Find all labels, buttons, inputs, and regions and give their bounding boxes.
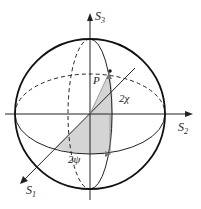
point-p-label: P: [92, 74, 100, 86]
s2-arrowhead: [185, 111, 193, 117]
s3-label: S3: [95, 9, 105, 25]
s3-arrowhead: [87, 13, 93, 21]
poincare-sphere-diagram: S3 S2 S1 P 2χ 2ψ: [0, 0, 201, 209]
s1-label: S1: [26, 183, 36, 199]
s2-label: S2: [178, 120, 188, 136]
point-p: [108, 69, 112, 73]
diagram-canvas: S3 S2 S1 P 2χ 2ψ: [0, 0, 201, 209]
psi-label: 2ψ: [68, 153, 81, 165]
chi-label: 2χ: [119, 92, 131, 104]
psi-sector-shade: [55, 114, 110, 154]
